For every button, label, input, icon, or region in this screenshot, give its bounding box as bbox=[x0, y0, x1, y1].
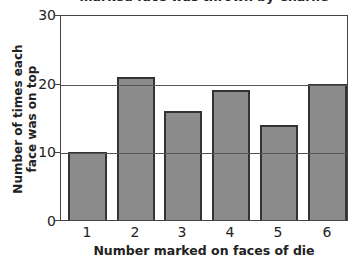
y-axis-label-line1: Number of times each bbox=[11, 34, 25, 204]
gridline-20 bbox=[61, 85, 347, 86]
y-axis-label-line2: face was on top bbox=[25, 34, 39, 204]
bar-5 bbox=[260, 125, 298, 220]
y-tick-30: 30 bbox=[38, 7, 56, 23]
y-tick-0: 0 bbox=[47, 213, 56, 229]
x-tick-2: 2 bbox=[120, 224, 150, 240]
bar-4 bbox=[212, 90, 250, 220]
bar-6 bbox=[308, 84, 347, 220]
y-axis-label: Number of times each face was on top bbox=[11, 34, 39, 204]
bar-3 bbox=[164, 111, 202, 220]
y-tick-20: 20 bbox=[38, 76, 56, 92]
x-tick-1: 1 bbox=[72, 224, 102, 240]
x-tick-4: 4 bbox=[215, 224, 245, 240]
gridline-10 bbox=[61, 153, 347, 154]
x-tick-3: 3 bbox=[167, 224, 197, 240]
x-tick-5: 5 bbox=[263, 224, 293, 240]
y-tick-10: 10 bbox=[38, 144, 56, 160]
chart-title: marked face was thrown by Charlie bbox=[60, 0, 348, 4]
plot-area bbox=[60, 15, 348, 221]
x-tick-6: 6 bbox=[312, 224, 342, 240]
bar-1 bbox=[68, 152, 107, 220]
x-axis-label: Number marked on faces of die bbox=[60, 243, 348, 258]
bar-2 bbox=[117, 77, 155, 220]
